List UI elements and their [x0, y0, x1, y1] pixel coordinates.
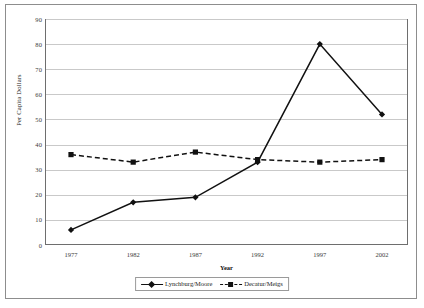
gridline [46, 44, 407, 45]
gridline [46, 119, 407, 120]
x-axis-tick-label: 1987 [172, 250, 218, 259]
x-axis-tick-labels: 197719821987199219972002 [45, 250, 408, 262]
y-axis-title: Per Capita Dollars [15, 40, 23, 160]
y-axis-tick-label: 30 [12, 166, 42, 173]
x-axis-tick-label: 1992 [235, 250, 281, 259]
y-axis-tick-label: 10 [12, 216, 42, 223]
x-axis-tick-label: 1997 [297, 250, 343, 259]
gridline [46, 145, 407, 146]
legend-swatch-icon [220, 280, 242, 288]
legend-label: Lynchburg/Moore [165, 280, 212, 288]
y-axis-tick-label: 0 [12, 242, 42, 249]
x-axis-tick-label: 2002 [359, 250, 405, 259]
y-axis-tick-label: 90 [12, 16, 42, 23]
gridline [46, 69, 407, 70]
legend-swatch-icon [141, 280, 163, 288]
gridline [46, 195, 407, 196]
y-axis-tick-labels: 0102030405060708090 [9, 19, 42, 245]
x-axis-tick-label: 1977 [48, 250, 94, 259]
legend-entry-2: Decatur/Meigs [220, 280, 283, 288]
chart-figure: 0102030405060708090 Per Capita Dollars 1… [0, 0, 424, 308]
gridline [46, 220, 407, 221]
gridline [46, 170, 407, 171]
legend-entry-1: Lynchburg/Moore [141, 280, 212, 288]
x-axis-title: Year [45, 263, 408, 272]
x-axis-tick-label: 1982 [110, 250, 156, 259]
y-axis-tick-label: 20 [12, 191, 42, 198]
gridline [46, 19, 407, 20]
gridline [46, 94, 407, 95]
plot-area [45, 19, 408, 245]
chart-legend: Lynchburg/MooreDecatur/Meigs [135, 277, 289, 291]
legend-label: Decatur/Meigs [244, 280, 283, 288]
